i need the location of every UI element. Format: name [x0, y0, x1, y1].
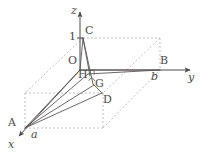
point-label-B: B — [160, 55, 168, 66]
axis-label-z: z — [71, 5, 77, 16]
point-label-C: C — [85, 25, 93, 36]
edge-H-B — [88, 70, 160, 74]
edge-A-D — [25, 93, 102, 128]
axis-label-x: x — [8, 139, 14, 150]
point-label-b-lower: b — [151, 71, 158, 82]
solid-edges-group — [25, 38, 160, 128]
point-label-O: O — [68, 55, 77, 66]
axis-label-y: y — [188, 72, 194, 83]
point-label-H: H — [78, 69, 88, 80]
point-label-a-lower: a — [31, 129, 38, 140]
point-label-A: A — [8, 117, 16, 128]
geometry-figure: z y x 1 a b O C B A D G H — [0, 0, 205, 157]
point-label-G: G — [95, 78, 104, 89]
dashed-edge-topright-d — [103, 38, 160, 93]
tick-label-one: 1 — [69, 31, 76, 42]
point-label-D: D — [103, 94, 112, 105]
edge-A-H — [25, 74, 88, 128]
